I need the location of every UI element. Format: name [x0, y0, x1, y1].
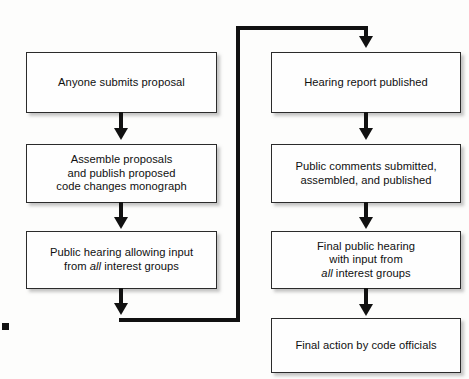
arrowhead-down-icon	[359, 304, 373, 316]
margin-mark-artifact	[2, 323, 9, 330]
process-box-label: Assemble proposals and publish proposed …	[51, 153, 191, 194]
feedback-loop-vertical-segment	[236, 26, 240, 322]
arrowhead-down-icon	[359, 36, 373, 48]
process-box-label: Hearing report published	[299, 76, 433, 90]
process-box-final-action-by-code-officials[interactable]: Final action by code officials	[271, 318, 461, 373]
process-box-final-public-hearing[interactable]: Final public hearing with input from all…	[271, 231, 461, 289]
process-box-label: Final public hearing with input from all…	[312, 240, 420, 281]
process-box-label: Anyone submits proposal	[53, 76, 190, 90]
process-box-hearing-report-published[interactable]: Hearing report published	[271, 52, 461, 113]
process-box-label: Public hearing allowing input from all i…	[45, 246, 198, 273]
process-box-assemble-proposals[interactable]: Assemble proposals and publish proposed …	[26, 144, 217, 203]
process-box-label-emphasis: all	[90, 260, 101, 272]
feedback-loop-top-segment	[236, 26, 368, 30]
process-box-label-emphasis: all	[321, 267, 332, 279]
process-box-label-part: interest groups	[333, 267, 411, 279]
process-box-label: Final action by code officials	[290, 339, 441, 353]
arrowhead-down-icon	[114, 303, 128, 315]
arrowhead-down-icon	[114, 128, 128, 140]
flowchart-figure: Anyone submits proposal Assemble proposa…	[0, 0, 469, 379]
process-box-public-comments-submitted[interactable]: Public comments submitted, assembled, an…	[271, 144, 461, 203]
arrowhead-down-icon	[359, 217, 373, 229]
arrowhead-down-icon	[114, 217, 128, 229]
feedback-loop-bottom-segment	[119, 318, 240, 322]
arrowhead-down-icon	[359, 128, 373, 140]
process-box-label-part: interest groups	[101, 260, 179, 272]
process-box-public-hearing-allowing-input[interactable]: Public hearing allowing input from all i…	[26, 231, 217, 289]
process-box-label-part: Final public hearing with input from	[317, 240, 415, 266]
process-box-label: Public comments submitted, assembled, an…	[290, 160, 441, 187]
process-box-anyone-submits-proposal[interactable]: Anyone submits proposal	[26, 52, 217, 113]
